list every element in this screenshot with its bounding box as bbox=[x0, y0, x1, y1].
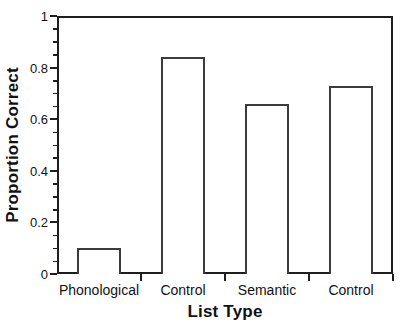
bar-phonological-0 bbox=[77, 248, 121, 274]
y-tick-label: 0 bbox=[0, 267, 48, 282]
y-major-tick bbox=[50, 118, 57, 120]
y-minor-tick bbox=[53, 261, 57, 263]
category-label-control: Control bbox=[160, 282, 205, 298]
y-minor-tick bbox=[53, 145, 57, 147]
y-minor-tick bbox=[53, 183, 57, 185]
y-tick-label: 0.2 bbox=[0, 215, 48, 230]
x-boundary-tick bbox=[224, 274, 226, 281]
x-boundary-tick bbox=[308, 274, 310, 281]
x-boundary-tick bbox=[392, 274, 394, 281]
x-axis-title: List Type bbox=[57, 302, 393, 322]
y-tick-label: 0.8 bbox=[0, 60, 48, 75]
y-minor-tick bbox=[53, 54, 57, 56]
bar-control-3 bbox=[329, 86, 373, 274]
y-minor-tick bbox=[53, 209, 57, 211]
bar-control-1 bbox=[161, 57, 205, 274]
y-axis-title: Proportion Correct bbox=[3, 67, 23, 223]
y-minor-tick bbox=[53, 157, 57, 159]
y-minor-tick bbox=[53, 80, 57, 82]
y-minor-tick bbox=[53, 106, 57, 108]
y-minor-tick bbox=[53, 28, 57, 30]
category-label-semantic: Semantic bbox=[238, 282, 296, 298]
y-tick-label: 1 bbox=[0, 9, 48, 24]
bar-chart-figure: Proportion Correct List Type 00.20.40.60… bbox=[0, 0, 401, 329]
y-major-tick bbox=[50, 221, 57, 223]
category-label-control: Control bbox=[328, 282, 373, 298]
y-major-tick bbox=[50, 273, 57, 275]
y-minor-tick bbox=[53, 235, 57, 237]
x-boundary-tick bbox=[140, 274, 142, 281]
y-major-tick bbox=[50, 67, 57, 69]
y-minor-tick bbox=[53, 41, 57, 43]
y-major-tick bbox=[50, 170, 57, 172]
category-label-phonological: Phonological bbox=[59, 282, 139, 298]
y-tick-label: 0.4 bbox=[0, 163, 48, 178]
y-minor-tick bbox=[53, 196, 57, 198]
y-tick-label: 0.6 bbox=[0, 112, 48, 127]
y-minor-tick bbox=[53, 132, 57, 134]
y-minor-tick bbox=[53, 93, 57, 95]
y-minor-tick bbox=[53, 248, 57, 250]
bar-semantic-2 bbox=[245, 104, 289, 274]
y-major-tick bbox=[50, 15, 57, 17]
